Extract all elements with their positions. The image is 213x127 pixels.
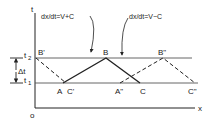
equation-left: dx/dt=V+C (41, 13, 74, 20)
t2-label: t (24, 51, 27, 60)
x-axis-label: x (198, 104, 202, 113)
t2-subscript: 2 (28, 55, 32, 61)
equation-left-pointer (90, 16, 94, 52)
dashed-characteristic-a-b-c-dbl (120, 58, 195, 83)
point-c-prime-label: C' (67, 87, 75, 96)
t1-subscript: 1 (28, 80, 32, 86)
delta-t-label: Δt (18, 67, 26, 76)
point-c-label: C (140, 87, 146, 96)
point-b-dbl-label: B" (158, 48, 166, 57)
equation-right-pointer (122, 18, 128, 55)
point-b-prime-label: B' (38, 48, 45, 57)
point-c-dbl-label: C" (188, 87, 197, 96)
dashed-characteristic-b-prime (36, 58, 66, 83)
characteristics-diagram: t x o t 2 t 1 Δt dx/dt=V+C dx/dt=V−C B' … (0, 0, 213, 127)
t1-label: t (24, 76, 27, 85)
origin-label: o (30, 111, 35, 120)
point-a-dbl-label: A" (115, 87, 123, 96)
solid-characteristic-abc (63, 58, 140, 83)
point-b-label: B (103, 48, 108, 57)
t-axis-label: t (31, 5, 34, 14)
point-a-label: A (57, 87, 63, 96)
equation-right: dx/dt=V−C (129, 13, 162, 20)
